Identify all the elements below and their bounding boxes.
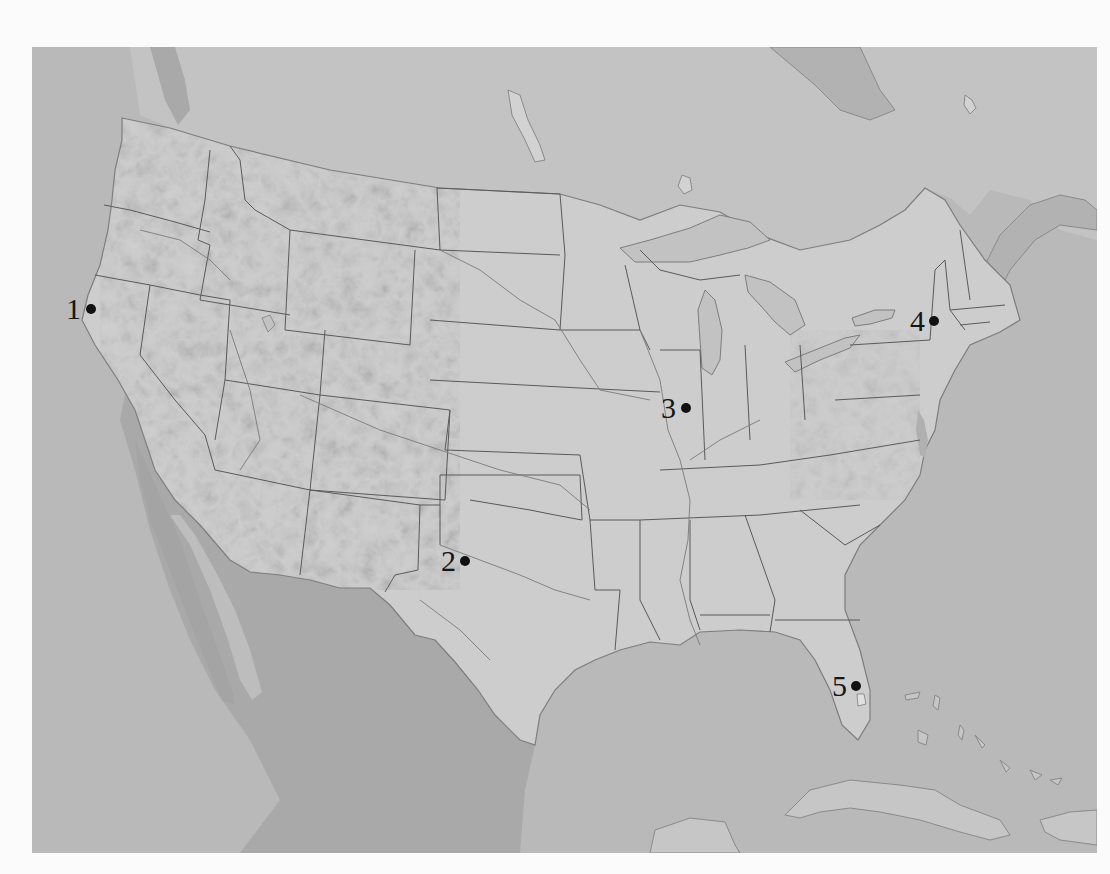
marker-4-dot [929,316,939,326]
marker-2-dot [460,556,470,566]
marker-4-label: 4 [910,306,925,336]
marker-2-label: 2 [441,546,456,576]
marker-3-label: 3 [661,393,676,423]
marker-1-dot [86,304,96,314]
marker-1-label: 1 [66,294,81,324]
marker-5-label: 5 [832,671,847,701]
map-frame: 1 2 3 4 5 [32,47,1097,853]
map-svg [32,47,1097,853]
marker-3-dot [681,403,691,413]
marker-5-dot [851,681,861,691]
cropped-heading-text [0,0,1110,8]
